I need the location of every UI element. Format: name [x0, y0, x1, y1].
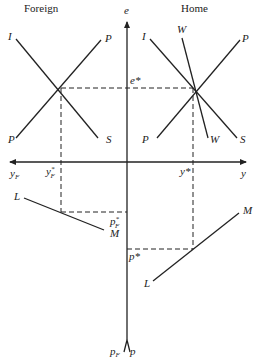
axis-label-yF: yF	[9, 167, 20, 181]
home-label-S: S	[240, 133, 246, 145]
home-label-L: L	[143, 277, 150, 289]
label-y-star: y*	[179, 165, 191, 177]
home-label-W-bottom: W	[210, 133, 220, 145]
foreign-label-P-top: P	[104, 32, 112, 44]
home-label-P-bottom: P	[141, 133, 149, 145]
foreign-label-P-bottom: P	[7, 133, 15, 145]
home-label-P-top: P	[241, 32, 249, 44]
home-label-I: I	[141, 30, 147, 42]
home-label-W-top: W	[177, 23, 187, 35]
axis-label-y: y	[240, 167, 246, 179]
foreign-label-S: S	[106, 133, 112, 145]
home-curve-P	[157, 40, 240, 138]
label-p-star: p*	[128, 250, 141, 262]
foreign-curve-LM	[24, 198, 104, 230]
home-label-M: M	[242, 204, 253, 216]
axis-label-p: p	[129, 345, 136, 357]
two-country-diagram: Foreign Home e y yF pF p I P P S I W P P…	[0, 0, 260, 361]
axis-label-pF: pF	[109, 345, 121, 359]
label-e-star: e*	[130, 74, 141, 86]
foreign-label-L: L	[13, 190, 20, 202]
label-yF-star: y*F	[45, 165, 55, 180]
foreign-label-I: I	[7, 30, 13, 42]
home-curve-LM	[153, 213, 239, 281]
axis-label-e: e	[124, 4, 129, 16]
foreign-title: Foreign	[24, 2, 59, 14]
home-title: Home	[181, 2, 208, 14]
